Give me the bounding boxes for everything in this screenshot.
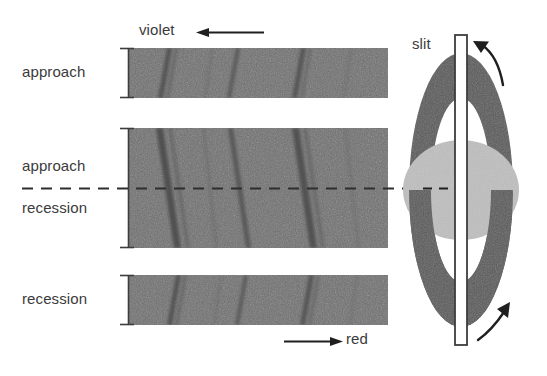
label-recession-globe: recession bbox=[22, 200, 87, 215]
label-red: red bbox=[346, 331, 368, 346]
red-arrow-icon bbox=[284, 337, 343, 346]
label-approach-upper-ring: approach bbox=[22, 64, 85, 79]
label-approach-globe: approach bbox=[22, 158, 85, 173]
diagram-svg bbox=[0, 0, 547, 376]
spectrum-strip-upper-ring bbox=[120, 48, 388, 98]
label-violet: violet bbox=[139, 22, 175, 37]
spectrum-strip-lower-ring bbox=[120, 275, 388, 325]
label-slit: slit bbox=[412, 36, 431, 51]
figure-canvas: approach approach recession recession vi… bbox=[0, 0, 547, 376]
saturn-slit-diagram bbox=[400, 35, 525, 345]
slit-opening bbox=[458, 38, 464, 342]
violet-arrow-icon bbox=[196, 28, 264, 37]
label-recession-lower-ring: recession bbox=[22, 291, 87, 306]
